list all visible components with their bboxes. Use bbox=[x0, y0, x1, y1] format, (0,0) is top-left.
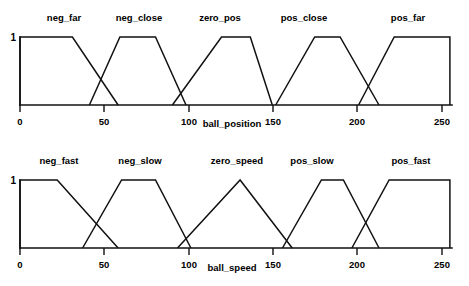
y-tick-label-1: 1 bbox=[10, 175, 16, 186]
y-tick-label-1: 1 bbox=[10, 32, 16, 43]
mf-neg-fast bbox=[20, 180, 118, 248]
x-tick-label-150: 150 bbox=[265, 116, 281, 127]
mf-pos-slow bbox=[283, 180, 380, 248]
term-label-neg-fast: neg_fast bbox=[39, 155, 79, 166]
mf-zero-speed bbox=[178, 180, 293, 248]
term-label-pos-close: pos_close bbox=[281, 12, 327, 23]
mf-neg-far bbox=[20, 37, 118, 105]
mf-pos-far bbox=[359, 37, 450, 105]
term-label-pos-slow: pos_slow bbox=[290, 155, 334, 166]
x-tick-label-0: 0 bbox=[17, 259, 22, 270]
x-tick-label-50: 50 bbox=[99, 259, 110, 270]
mf-pos-fast bbox=[352, 180, 450, 248]
x-tick-label-200: 200 bbox=[349, 259, 365, 270]
x-tick-label-100: 100 bbox=[181, 259, 197, 270]
x-tick-label-50: 50 bbox=[99, 116, 110, 127]
term-label-zero-pos: zero_pos bbox=[199, 12, 241, 23]
term-label-pos-far: pos_far bbox=[391, 12, 426, 23]
x-axis-title-ball-position: ball_position bbox=[203, 118, 262, 129]
mf-zero-pos bbox=[172, 37, 272, 105]
mf-neg-slow bbox=[83, 180, 191, 248]
term-label-zero-speed: zero_speed bbox=[211, 155, 263, 166]
chart-ball-speed: neg_fast neg_slow zero_speed pos_slow po… bbox=[10, 155, 452, 273]
x-tick-label-0: 0 bbox=[17, 116, 22, 127]
term-label-pos-fast: pos_fast bbox=[391, 155, 431, 166]
x-tick-label-250: 250 bbox=[434, 116, 450, 127]
term-label-neg-close: neg_close bbox=[116, 12, 162, 23]
term-label-neg-slow: neg_slow bbox=[118, 155, 162, 166]
fuzzy-membership-figure: neg_far neg_close zero_pos pos_close pos… bbox=[0, 0, 469, 286]
x-tick-label-200: 200 bbox=[349, 116, 365, 127]
mf-neg-close bbox=[89, 37, 186, 105]
x-axis-title-ball-speed: ball_speed bbox=[207, 262, 256, 273]
x-tick-label-150: 150 bbox=[265, 259, 281, 270]
x-tick-label-250: 250 bbox=[434, 259, 450, 270]
chart-ball-position: neg_far neg_close zero_pos pos_close pos… bbox=[10, 12, 452, 129]
figure-svg: neg_far neg_close zero_pos pos_close pos… bbox=[0, 0, 469, 286]
x-tick-label-100: 100 bbox=[181, 116, 197, 127]
term-label-neg-far: neg_far bbox=[47, 12, 82, 23]
